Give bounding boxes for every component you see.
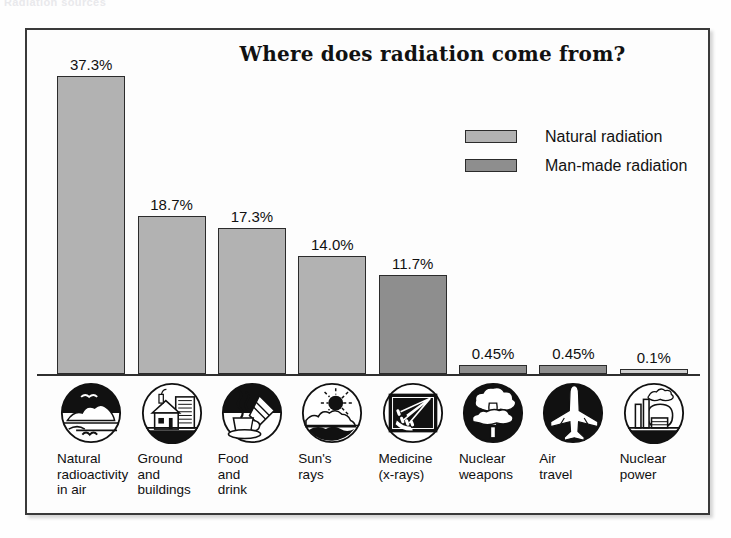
bar-ground-and-buildings (138, 216, 206, 374)
bar-nuclear-weapons (459, 365, 527, 374)
axis-label: Sun's rays (292, 451, 372, 482)
bar-value-label: 11.7% (392, 255, 433, 272)
bar-group: 37.3% 18.7% 17.3% 14.0% 11.7% 0.45% (51, 56, 694, 374)
bar-natural-radioactivity-in-air (57, 76, 125, 374)
coffee-sandwich-icon (221, 382, 283, 444)
bar-suns-rays (298, 256, 366, 374)
bar-value-label: 14.0% (311, 236, 354, 253)
bar-column: 0.45% (453, 56, 533, 374)
axis-item-nuclear-power: Nuclear power (614, 382, 694, 498)
axis-item-medicine-xrays: Medicine (x-rays) (373, 382, 453, 498)
category-axis: Natural radioactivity in air Ground and … (51, 382, 694, 498)
bar-air-travel (539, 365, 607, 374)
axis-label: Nuclear power (614, 451, 694, 482)
axis-label: Nuclear weapons (453, 451, 533, 482)
axis-baseline (37, 374, 700, 376)
bar-value-label: 18.7% (150, 196, 193, 213)
axis-label: Ground and buildings (131, 451, 211, 498)
axis-item-air-travel: Air travel (533, 382, 613, 498)
bar-food-and-drink (218, 228, 286, 374)
axis-item-natural-radioactivity-in-air: Natural radioactivity in air (51, 382, 131, 498)
bar-column: 0.1% (614, 56, 694, 374)
scan-header-text: Radiation sources (4, 0, 106, 8)
axis-item-suns-rays: Sun's rays (292, 382, 372, 498)
xray-hand-icon (382, 382, 444, 444)
bar-value-label: 0.45% (552, 345, 595, 362)
bar-value-label: 0.45% (472, 345, 515, 362)
chart-panel: Where does radiation come from? Natural … (25, 28, 710, 515)
bar-column: 18.7% (131, 56, 211, 374)
bar-column: 14.0% (292, 56, 372, 374)
landscape-birds-icon (60, 382, 122, 444)
bar-column: 17.3% (212, 56, 292, 374)
axis-item-food-and-drink: Food and drink (212, 382, 292, 498)
bar-value-label: 37.3% (70, 56, 113, 73)
bar-value-label: 17.3% (231, 208, 274, 225)
bar-value-label: 0.1% (637, 349, 671, 366)
axis-item-nuclear-weapons: Nuclear weapons (453, 382, 533, 498)
mushroom-cloud-icon (462, 382, 524, 444)
plot-area: 37.3% 18.7% 17.3% 14.0% 11.7% 0.45% (51, 44, 694, 374)
bar-column: 0.45% (533, 56, 613, 374)
axis-label: Air travel (533, 451, 613, 482)
sun-clouds-icon (301, 382, 363, 444)
bar-medicine-xrays (379, 275, 447, 374)
axis-item-ground-and-buildings: Ground and buildings (131, 382, 211, 498)
airplane-icon (542, 382, 604, 444)
bar-column: 11.7% (373, 56, 453, 374)
power-plant-icon (623, 382, 685, 444)
axis-label: Medicine (x-rays) (373, 451, 453, 482)
bar-column: 37.3% (51, 56, 131, 374)
house-building-icon (141, 382, 203, 444)
axis-label: Natural radioactivity in air (51, 451, 131, 498)
axis-label: Food and drink (212, 451, 292, 498)
